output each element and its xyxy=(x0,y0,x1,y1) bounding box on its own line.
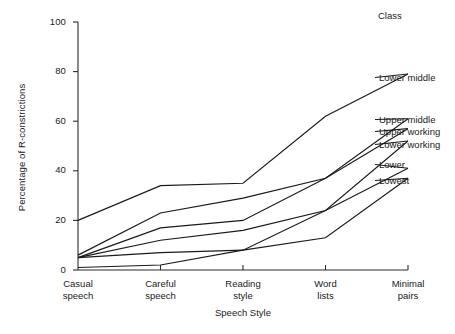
legend-label-upper-working: Upper working xyxy=(379,126,440,137)
x-tick-label-line2: speech xyxy=(41,290,115,302)
x-tick-label-2: Readingstyle xyxy=(206,278,280,301)
legend-label-lower-working: Lower working xyxy=(379,139,440,150)
chart-container: 020406080100 CasualspeechCarefulspeechRe… xyxy=(0,0,455,334)
x-axis-ticks xyxy=(161,265,409,270)
axes-group xyxy=(78,22,408,270)
x-tick-label-line1: Careful xyxy=(124,278,198,290)
x-tick-label-line2: style xyxy=(206,290,280,302)
data-series-group xyxy=(78,74,408,267)
x-axis-title: Speech Style xyxy=(78,307,408,318)
legend-label-lower-middle: Lower middle xyxy=(379,72,436,83)
legend-label-lowest: Lowest xyxy=(379,175,409,186)
x-tick-label-line2: speech xyxy=(124,290,198,302)
y-axis-ticks xyxy=(73,22,78,270)
y-tick-label-0: 0 xyxy=(40,265,66,275)
x-tick-label-4: Minimalpairs xyxy=(371,278,445,301)
x-tick-label-line1: Minimal xyxy=(371,278,445,290)
x-tick-label-line1: Reading xyxy=(206,278,280,290)
x-tick-label-1: Carefulspeech xyxy=(124,278,198,301)
x-tick-label-line1: Word xyxy=(289,278,363,290)
y-tick-label-100: 100 xyxy=(40,17,66,27)
series-line-upper-middle xyxy=(78,119,408,255)
legend-title: Class xyxy=(378,10,402,21)
y-tick-label-20: 20 xyxy=(40,215,66,225)
x-tick-label-line2: pairs xyxy=(371,290,445,302)
x-tick-label-line1: Casual xyxy=(41,278,115,290)
y-axis-title: Percentage of R-constrictions xyxy=(16,63,27,233)
x-tick-label-0: Casualspeech xyxy=(41,278,115,301)
legend-label-upper-middle: Upper middle xyxy=(379,114,436,125)
x-tick-label-3: Wordlists xyxy=(289,278,363,301)
y-tick-label-80: 80 xyxy=(40,66,66,76)
x-tick-label-line2: lists xyxy=(289,290,363,302)
legend-label-lower: Lower xyxy=(379,159,405,170)
series-line-lower xyxy=(78,168,408,257)
y-tick-label-60: 60 xyxy=(40,116,66,126)
y-tick-label-40: 40 xyxy=(40,165,66,175)
